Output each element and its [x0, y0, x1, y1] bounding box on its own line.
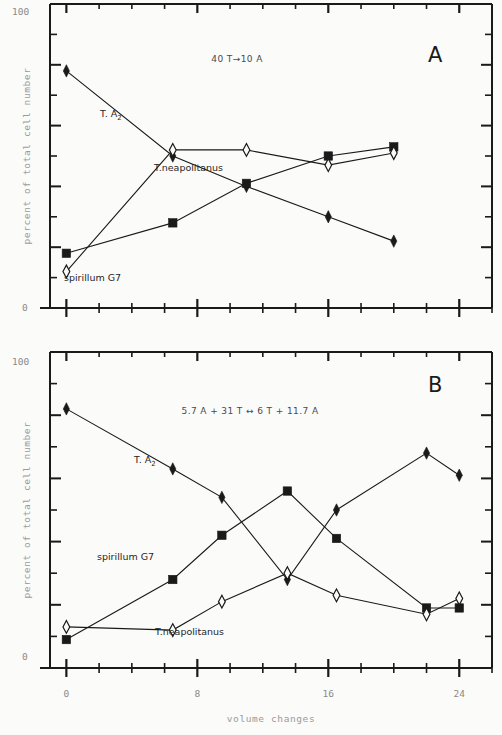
series-label-neapolitanus-b: T.neapolitanus [154, 626, 224, 637]
data-point-square [242, 179, 250, 187]
data-point-filled-diamond [456, 469, 462, 481]
data-point-filled-diamond [170, 463, 176, 475]
series-label-spirillum-b: spirillum G7 [97, 551, 154, 562]
y-axis-title: percent of total cell number [21, 68, 32, 245]
data-point-filled-diamond [391, 235, 397, 247]
data-point-filled-diamond [325, 211, 331, 223]
reaction-annotation: 40 T→10 A [211, 54, 263, 64]
series-line-3 [66, 150, 393, 272]
data-point-filled-diamond [63, 65, 69, 77]
y-axis-max-label: 100 [12, 6, 29, 17]
series-label-ta2-a: T. A2 [99, 108, 122, 122]
x-axis-title: volume changes [227, 713, 315, 724]
series-line-2 [66, 491, 459, 640]
series-line-3 [66, 573, 459, 630]
data-point-square [62, 635, 70, 643]
data-point-open-diamond [333, 589, 340, 602]
y-axis-max-label: 100 [12, 356, 29, 367]
x-tick-label-0: 0 [64, 688, 70, 699]
data-point-square [169, 575, 177, 583]
series-label-ta2-b: T. A2 [133, 454, 156, 468]
data-point-open-diamond [243, 144, 250, 157]
data-point-square [283, 487, 291, 495]
data-point-open-diamond [456, 592, 463, 605]
scientific-figure: 1000A40 T→10 Apercent of total cell numb… [0, 0, 502, 735]
panel-letter-B: B [428, 373, 442, 397]
x-tick-label-16: 16 [323, 688, 335, 699]
series-label-spirillum-a: spirillum G7 [64, 272, 121, 283]
data-point-open-diamond [218, 595, 225, 608]
x-tick-label-8: 8 [194, 688, 200, 699]
data-point-square [218, 531, 226, 539]
y-axis-min-label: 0 [22, 302, 28, 313]
data-point-square [169, 219, 177, 227]
series-line-2 [66, 147, 393, 253]
y-axis-title: percent of total cell number [21, 422, 32, 599]
data-point-filled-diamond [219, 491, 225, 503]
data-point-open-diamond [63, 621, 70, 634]
data-point-square [62, 249, 70, 257]
y-axis-min-label: 0 [22, 651, 28, 662]
data-point-filled-diamond [333, 504, 339, 516]
series-label-neapolitanus-a: T.neapolitanus [153, 162, 223, 173]
data-point-square [332, 534, 340, 542]
reaction-annotation: 5.7 A + 31 T ↔ 6 T + 11.7 A [182, 406, 319, 416]
data-point-filled-diamond [63, 403, 69, 415]
figure-canvas: 1000A40 T→10 Apercent of total cell numb… [0, 0, 502, 735]
data-point-filled-diamond [423, 447, 429, 459]
data-point-open-diamond [325, 159, 332, 172]
x-tick-label-24: 24 [454, 688, 466, 699]
panel-letter-A: A [428, 43, 443, 67]
